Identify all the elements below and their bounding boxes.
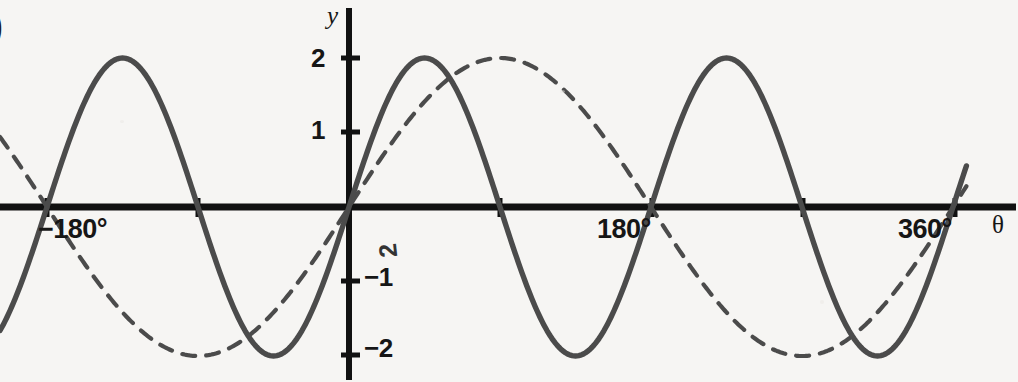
x-axis-title: θ xyxy=(992,212,1004,237)
y-tick-label-neg1: −1 xyxy=(364,264,393,290)
x-tick-label-180: 180° xyxy=(597,216,651,243)
figure-root: −180° 180° 360° 2 1 −1 −2 y θ 2 ) xyxy=(0,0,1018,382)
x-tick-label-360: 360° xyxy=(898,216,952,243)
x-tick-label-neg180: −180° xyxy=(38,216,107,243)
figure-label-partial-paren-icon: ) xyxy=(0,4,3,46)
y-tick-label-1: 1 xyxy=(311,117,325,143)
paper-speck xyxy=(820,300,824,304)
paper-speck xyxy=(560,90,565,93)
y-tick-label-2: 2 xyxy=(311,45,325,71)
y-tick-label-neg2: −2 xyxy=(364,335,393,361)
paper-speck xyxy=(120,120,124,123)
y-axis-title: y xyxy=(327,3,338,28)
trigonometric-graph-plot xyxy=(0,0,1018,382)
